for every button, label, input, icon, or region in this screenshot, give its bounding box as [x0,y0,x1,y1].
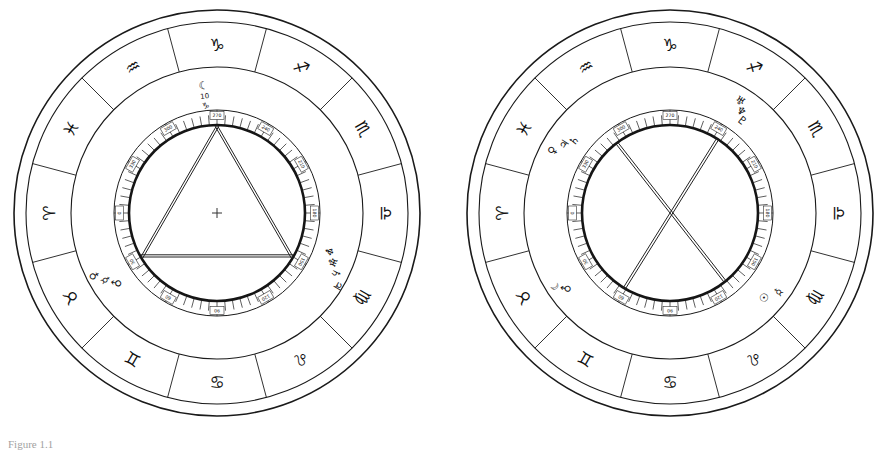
aspect-line [616,144,724,283]
degree-tick [232,116,234,126]
degree-tick [279,144,286,151]
degree-tick [142,270,150,276]
house-number-group: 240 [258,122,274,136]
right-wheel: ♑♒♓♈♉♊♋♌♍♎♏♐2703003300306090120150180210… [467,10,873,416]
degree-tick [247,296,250,305]
degree-tick [183,296,186,305]
degree-tick [607,280,613,288]
zodiac-sign-aries: ♈ [39,205,59,220]
zodiac-sign-taurus: ♉ [512,286,537,309]
degree-tick [183,121,186,130]
degree-tick [575,188,585,191]
degree-tick [727,280,733,288]
house-number-group: 270 [663,112,677,120]
house-number-group: 150 [294,254,308,270]
zodiac-sign-aries: ♈ [492,205,512,220]
degree-tick [154,280,160,288]
house-number-label: 0 [117,211,122,214]
zodiac-sign-gemini: ♊ [574,346,597,371]
degree-tick [578,179,587,182]
zodiac-sign-sagittarius: ♐ [290,55,313,80]
sign-divider [621,29,633,72]
zodiac-sign-gemini: ♊ [121,346,144,371]
degree-tick [142,150,150,156]
degree-tick [572,204,582,205]
degree-tick [755,188,765,191]
degree-tick [661,301,662,311]
figure-caption: Figure 1.1 [8,438,53,450]
degree-tick [678,301,679,311]
sign-divider [486,164,529,176]
degree-tick [753,243,762,246]
house-number-label: 180 [765,209,770,218]
house-number-group: 300 [160,122,176,136]
sign-divider [255,29,267,72]
planet-sun: ☉ [756,289,772,305]
sign-divider [708,354,720,397]
degree-tick [284,150,292,156]
degree-tick [753,179,762,182]
degree-tick [601,275,608,282]
sign-divider [486,251,529,263]
sign-divider [773,78,805,110]
degree-tick [757,196,767,198]
house-number-label: 90 [667,308,673,313]
zodiac-sign-pisces: ♓ [59,117,84,140]
zodiac-sign-capricorn: ♑ [209,35,224,55]
zodiac-sign-leo: ♌ [743,346,766,371]
degree-tick [685,300,687,310]
house-number-label: 180 [312,209,317,218]
degree-tick [693,298,696,308]
sign-divider [33,251,76,263]
degree-tick [737,150,745,156]
degree-tick [607,138,613,146]
degree-tick [737,270,745,276]
degree-tick [208,301,209,311]
degree-tick [575,236,585,239]
house-number-group: 120 [258,290,274,304]
house-number-group: 0 [116,206,124,220]
degree-tick [125,243,134,246]
degree-tick [678,115,679,125]
zodiac-sign-cancer: ♋ [209,372,224,392]
sign-divider [168,29,180,72]
house-number-group: 150 [747,254,761,270]
degree-tick [232,300,234,310]
aspect-line-double [618,142,726,281]
sign-divider [773,316,805,348]
zodiac-sign-virgo: ♍ [350,286,375,309]
planet-glyph-sun: ☉ [756,289,772,305]
degree-tick [122,188,132,191]
zodiac-sign-libra: ♎ [376,205,396,220]
planet-mercury: ☿ [771,285,785,298]
zodiac-sign-capricorn: ♑ [662,35,677,55]
degree-tick [755,236,765,239]
degree-tick [636,296,639,305]
zodiac-sign-scorpio: ♏ [350,117,375,140]
zodiac-sign-libra: ♎ [829,205,849,220]
degree-tick [304,196,314,198]
sign-divider [621,354,633,397]
house-number-group: 330 [579,156,593,172]
house-number-label: 0 [570,211,575,214]
left-wheel: ♑♒♓♈♉♊♋♌♍♎♏♐2703003300306090120150180210… [14,10,420,416]
zodiac-sign-virgo: ♍ [803,286,828,309]
degree-tick [192,118,195,128]
degree-tick [693,118,696,128]
house-number-group: 90 [663,307,677,315]
degree-tick [573,228,583,230]
sign-divider [535,316,567,348]
degree-tick [274,280,280,288]
degree-tick [653,300,655,310]
degree-tick [757,228,767,230]
degree-tick [247,121,250,130]
degree-tick [573,196,583,198]
sign-divider [535,78,567,110]
zodiac-sign-leo: ♌ [290,346,313,371]
degree-tick [595,150,603,156]
degree-tick [200,116,202,126]
house-number-label: 270 [666,113,675,118]
aspect-line [217,125,293,257]
degree-tick [192,298,195,308]
